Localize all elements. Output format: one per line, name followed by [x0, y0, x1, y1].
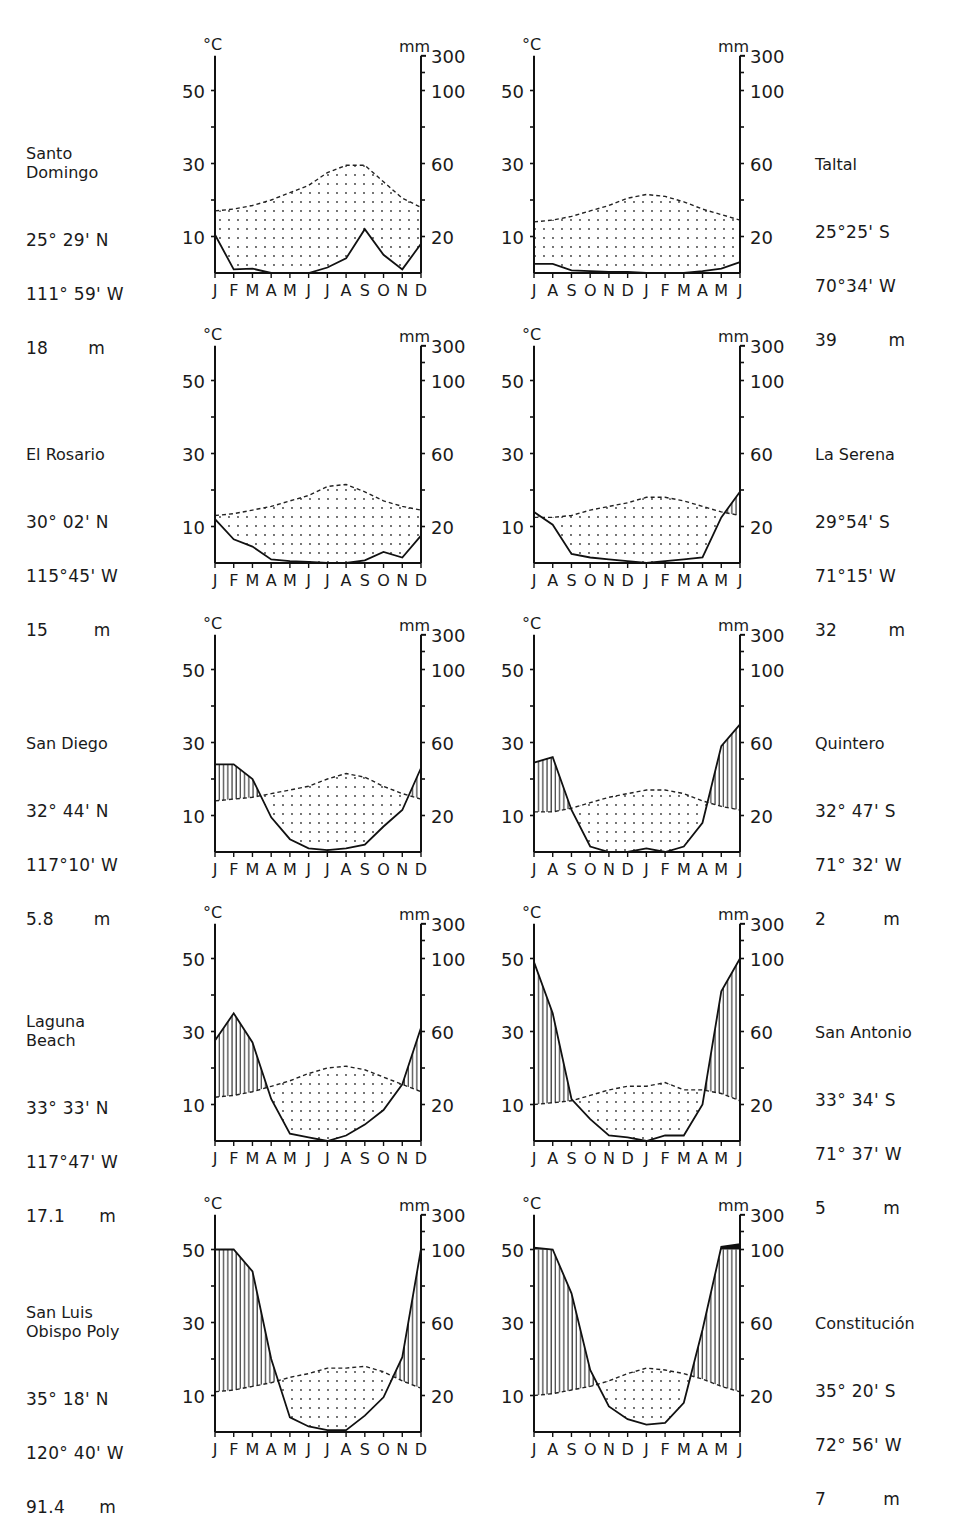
- temperature-tick-label: 10: [182, 1386, 205, 1407]
- temperature-tick-label: 30: [501, 1313, 524, 1334]
- temperature-tick-label: 50: [501, 371, 524, 392]
- month-label: O: [584, 1149, 597, 1168]
- temperature-tick-label: 30: [182, 1022, 205, 1043]
- month-label: J: [212, 1149, 218, 1168]
- month-label: J: [531, 281, 537, 300]
- precipitation-tick-label: 20: [750, 1386, 773, 1407]
- station-elevation: 39 m: [815, 331, 905, 349]
- station-name: Taltal: [815, 155, 905, 174]
- month-label: M: [714, 1149, 728, 1168]
- month-label: M: [677, 1149, 691, 1168]
- month-label: D: [415, 1440, 427, 1459]
- celsius-unit-label: °C: [203, 1194, 222, 1213]
- perhumid-period-fill: [215, 1185, 421, 1432]
- station-coordinates: 35° 20' S 72° 56' W 7 m: [815, 1346, 915, 1517]
- month-label: A: [266, 281, 277, 300]
- precipitation-tick-label: 300: [431, 1205, 465, 1226]
- month-label: O: [377, 860, 390, 879]
- station-longitude: 117°10' W: [26, 856, 118, 874]
- month-label: D: [415, 1149, 427, 1168]
- station-label: Taltal 25°25' S 70°34' W 39 m: [815, 155, 905, 385]
- station-latitude: 33° 33' N: [26, 1099, 118, 1117]
- month-label: N: [603, 571, 615, 590]
- month-label: M: [677, 281, 691, 300]
- month-label: S: [360, 1149, 370, 1168]
- month-label: D: [415, 860, 427, 879]
- climate-chart: 5030103001006020°CmmJFMAMJJASOND: [182, 605, 465, 879]
- mm-unit-label: mm: [399, 327, 430, 346]
- temperature-tick-label: 10: [501, 806, 524, 827]
- month-label: J: [531, 1149, 537, 1168]
- month-label: M: [677, 1440, 691, 1459]
- month-label: A: [697, 1149, 708, 1168]
- celsius-unit-label: °C: [522, 35, 541, 54]
- precipitation-tick-label: 20: [431, 227, 454, 248]
- temperature-tick-label: 50: [182, 81, 205, 102]
- station-coordinates: 33° 34' S 71° 37' W 5 m: [815, 1055, 912, 1253]
- month-label: S: [566, 1149, 576, 1168]
- temperature-tick-label: 10: [182, 1095, 205, 1116]
- month-label: S: [360, 1440, 370, 1459]
- station-longitude: 71° 37' W: [815, 1145, 912, 1163]
- temperature-tick-label: 30: [182, 444, 205, 465]
- station-elevation: 2 m: [815, 910, 902, 928]
- month-label: A: [547, 1149, 558, 1168]
- climate-chart: 5030103001006020°CmmJASONDJFMAMJ: [501, 26, 784, 300]
- month-label: M: [246, 281, 260, 300]
- climate-chart: 5030103001006020°CmmJASONDJFMAMJ: [501, 1185, 784, 1459]
- celsius-unit-label: °C: [522, 1194, 541, 1213]
- month-label: J: [305, 281, 311, 300]
- celsius-unit-label: °C: [522, 903, 541, 922]
- station-label: La Serena 29°54' S 71°15' W 32 m: [815, 445, 905, 675]
- station-latitude: 33° 34' S: [815, 1091, 912, 1109]
- station-label: San Luis Obispo Poly 35° 18' N 120° 40' …: [26, 1303, 124, 1517]
- month-label: F: [660, 860, 669, 879]
- mm-unit-label: mm: [718, 905, 749, 924]
- climate-chart: 5030103001006020°CmmJASONDJFMAMJ: [501, 316, 784, 590]
- temperature-tick-label: 30: [501, 1022, 524, 1043]
- precipitation-tick-label: 60: [431, 1022, 454, 1043]
- climate-chart: 5030103001006020°CmmJFMAMJJASOND: [182, 894, 465, 1168]
- month-label: F: [229, 1149, 238, 1168]
- month-label: M: [283, 1149, 297, 1168]
- month-label: M: [283, 860, 297, 879]
- climate-chart: 5030103001006020°CmmJASONDJFMAMJ: [501, 894, 784, 1168]
- month-label: O: [377, 1440, 390, 1459]
- station-label: Constitución 35° 20' S 72° 56' W 7 m: [815, 1314, 915, 1517]
- month-label: F: [229, 860, 238, 879]
- mm-unit-label: mm: [399, 1196, 430, 1215]
- month-label: M: [714, 571, 728, 590]
- month-label: N: [603, 281, 615, 300]
- temperature-tick-label: 10: [182, 517, 205, 538]
- month-label: A: [266, 1149, 277, 1168]
- month-label: M: [714, 281, 728, 300]
- temperature-tick-label: 10: [182, 227, 205, 248]
- station-coordinates: 32° 44' N 117°10' W 5.8 m: [26, 766, 118, 964]
- month-label: N: [603, 1149, 615, 1168]
- precipitation-tick-label: 100: [750, 1240, 784, 1261]
- month-label: A: [341, 860, 352, 879]
- month-label: J: [737, 571, 743, 590]
- temperature-tick-label: 30: [182, 733, 205, 754]
- temperature-tick-label: 50: [501, 81, 524, 102]
- month-label: M: [283, 1440, 297, 1459]
- station-latitude: 30° 02' N: [26, 513, 118, 531]
- month-label: M: [677, 571, 691, 590]
- mm-unit-label: mm: [399, 37, 430, 56]
- month-label: A: [266, 1440, 277, 1459]
- month-label: O: [584, 1440, 597, 1459]
- precipitation-tick-label: 300: [750, 1205, 784, 1226]
- precipitation-tick-label: 100: [431, 949, 465, 970]
- month-label: F: [660, 1149, 669, 1168]
- month-label: N: [396, 281, 408, 300]
- charts-group: 5030103001006020°CmmJFMAMJJASOND50301030…: [182, 26, 784, 1459]
- month-label: D: [621, 571, 633, 590]
- temperature-tick-label: 10: [501, 1095, 524, 1116]
- month-label: J: [212, 281, 218, 300]
- month-label: A: [266, 860, 277, 879]
- station-name: San Luis Obispo Poly: [26, 1303, 124, 1341]
- station-name: Santo Domingo: [26, 144, 124, 182]
- month-label: M: [714, 1440, 728, 1459]
- month-label: M: [283, 571, 297, 590]
- month-label: D: [415, 571, 427, 590]
